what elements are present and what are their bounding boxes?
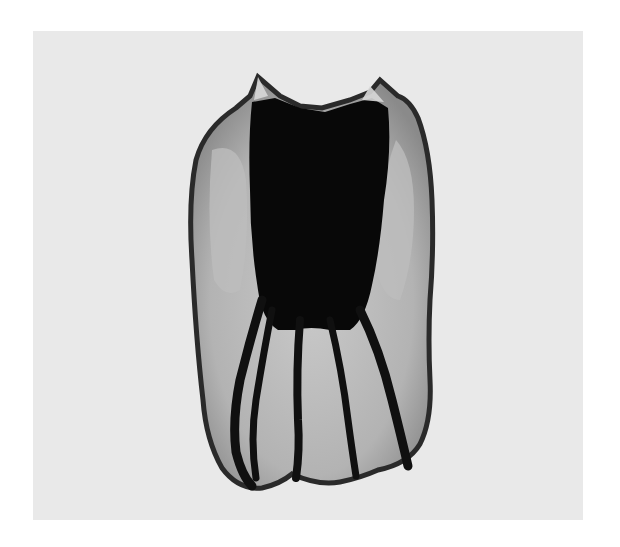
tooth-radiograph-image — [0, 0, 620, 547]
pulp-filling — [249, 98, 389, 330]
